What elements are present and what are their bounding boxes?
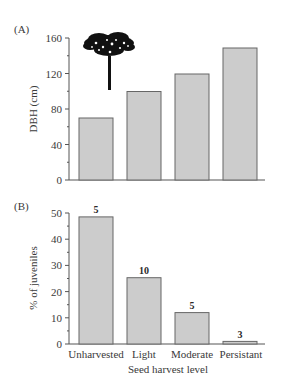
panel-a-bar-moderate <box>175 74 209 180</box>
panel-b-tick-20: 20 <box>51 286 63 298</box>
panel-b-tick-30: 30 <box>51 259 63 271</box>
panel-b-count-light: 10 <box>139 265 149 276</box>
panel-b-bar-persistant <box>223 341 257 344</box>
panel-a-tick-160: 160 <box>46 32 63 44</box>
panel-b-tick-50: 50 <box>51 207 63 219</box>
panel-b-tick-10: 10 <box>51 312 63 324</box>
panel-b: (B) 0 10 20 30 40 50 % of juven <box>14 200 265 375</box>
panel-b-count-unharvested: 5 <box>94 204 99 215</box>
panel-b-tick-40: 40 <box>51 233 63 245</box>
figure: (A) 0 40 80 120 160 DBH (cm) <box>0 0 283 392</box>
panel-a-tick-40: 40 <box>51 139 63 151</box>
panel-a: (A) 0 40 80 120 160 DBH (cm) <box>14 23 265 186</box>
x-category-unharvested: Unharvested <box>68 348 124 360</box>
panel-b-count-moderate: 5 <box>190 300 195 311</box>
x-category-light: Light <box>132 348 156 360</box>
panel-b-label: (B) <box>14 200 29 213</box>
panel-b-bar-unharvested <box>79 217 113 344</box>
x-category-moderate: Moderate <box>171 348 213 360</box>
panel-b-bar-light <box>127 278 161 344</box>
panel-a-bar-light <box>127 92 161 181</box>
panel-b-tick-0: 0 <box>57 338 63 350</box>
panel-a-tick-80: 80 <box>51 103 63 115</box>
panel-a-bar-unharvested <box>79 118 113 180</box>
x-category-persistant: Persistant <box>220 348 263 360</box>
panel-a-y-title: DBH (cm) <box>27 85 40 132</box>
panel-a-major-ticks <box>65 38 69 180</box>
panel-b-bar-moderate <box>175 313 209 344</box>
panel-a-tick-0: 0 <box>57 174 63 186</box>
panel-a-label: (A) <box>14 23 30 36</box>
panel-b-count-persistant: 3 <box>238 329 243 340</box>
tree-icon <box>83 32 135 90</box>
panel-b-x-title: Seed harvest level <box>128 363 208 375</box>
panel-a-bar-persistant <box>223 48 257 180</box>
panel-a-tick-120: 120 <box>46 68 63 80</box>
panel-b-y-title: % of juveniles <box>27 246 39 310</box>
